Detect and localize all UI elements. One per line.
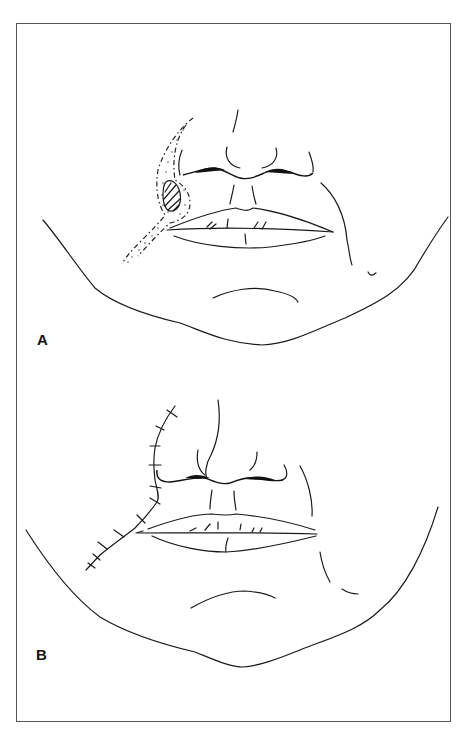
nose-bridge-a: [233, 110, 238, 132]
stipple-flap-a: [127, 129, 185, 262]
lip-line-b: [138, 533, 317, 534]
nose-ala-right-b: [282, 465, 287, 480]
nostril-left-b: [197, 450, 205, 475]
nose-ala-left-a: [179, 150, 182, 175]
flap-outline-outer-a: [122, 118, 193, 264]
right-cheek-fold-a: [321, 183, 352, 265]
philtrum-right-a: [252, 186, 256, 204]
nostril-right-b: [250, 452, 257, 470]
suture-stitches-b: [88, 410, 177, 568]
sutured-incision-b: [86, 406, 175, 570]
right-chin-mark-a: [368, 272, 376, 275]
nose-base-b: [157, 470, 283, 484]
nose-ala-right-a: [309, 152, 313, 172]
jaw-outline-b: [26, 507, 438, 667]
right-cheek-fold-b: [300, 466, 312, 516]
panel-a-drawing: [43, 110, 448, 345]
illustration: [0, 0, 464, 743]
panel-b-drawing: [26, 400, 438, 667]
right-chin-mark-b: [342, 589, 358, 594]
philtrum-left-a: [230, 185, 234, 204]
lower-lip-a: [174, 236, 325, 248]
nose-bridge-b: [206, 400, 219, 478]
chin-crease-a: [213, 288, 298, 302]
lip-line-a: [167, 228, 333, 232]
chin-crease-b: [191, 591, 275, 608]
lip-midline-b: [226, 538, 228, 552]
right-cheek-fold-lower-b: [320, 552, 330, 582]
lower-lip-b: [152, 536, 316, 552]
upper-lip-b: [148, 514, 315, 530]
panel-label-a: A: [37, 332, 48, 347]
lip-texture-b: [190, 522, 262, 532]
lip-texture-a: [207, 219, 266, 244]
nostril-left-a: [226, 147, 240, 168]
philtrum-left-b: [210, 490, 212, 509]
nostril-right-a: [262, 148, 277, 168]
philtrum-right-b: [234, 491, 236, 510]
panel-label-b: B: [36, 647, 47, 662]
